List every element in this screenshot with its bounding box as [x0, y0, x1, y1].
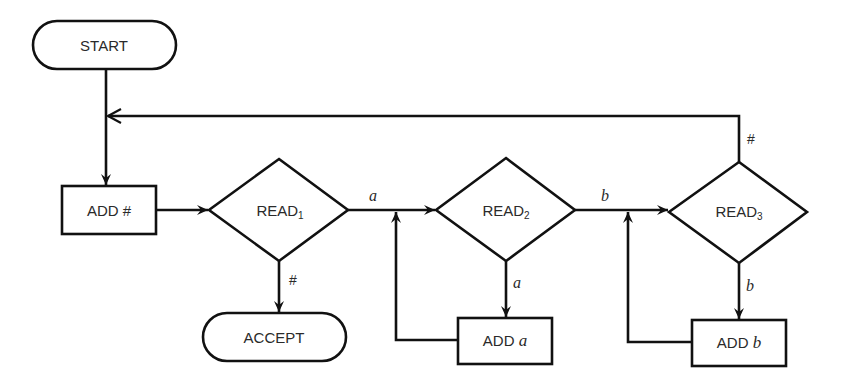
read2-label: READ2 — [482, 202, 529, 221]
edge-read3-hash-feedback — [108, 116, 739, 162]
read2-text: READ — [482, 202, 524, 219]
add-b-label: ADD b — [717, 333, 761, 353]
add-a-text: ADD — [483, 332, 515, 349]
read3-subscript: 3 — [757, 211, 763, 222]
read3-text: READ — [715, 203, 757, 220]
read3-label: READ3 — [715, 203, 762, 222]
read2-subscript: 2 — [524, 210, 530, 221]
edge-label-read3-b: b — [746, 277, 754, 295]
edge-label-read1-a: a — [369, 187, 377, 205]
add-b-var: b — [753, 333, 762, 352]
edge-add-b-feedback — [628, 212, 692, 342]
edge-label-read2-a: a — [513, 274, 521, 292]
add-b-text: ADD — [717, 334, 749, 351]
edge-add-a-feedback — [396, 212, 458, 340]
add-hash-label: ADD # — [87, 202, 131, 219]
edge-label-read3-hash: # — [747, 131, 755, 147]
add-a-var: a — [519, 331, 528, 350]
edge-label-read2-b: b — [601, 187, 609, 205]
edge-label-read1-hash: # — [289, 272, 297, 288]
read1-label: READ1 — [256, 202, 303, 221]
read1-subscript: 1 — [298, 210, 304, 221]
read1-text: READ — [256, 202, 298, 219]
start-label: START — [80, 37, 128, 54]
add-a-label: ADD a — [483, 331, 527, 351]
accept-label: ACCEPT — [244, 329, 305, 346]
